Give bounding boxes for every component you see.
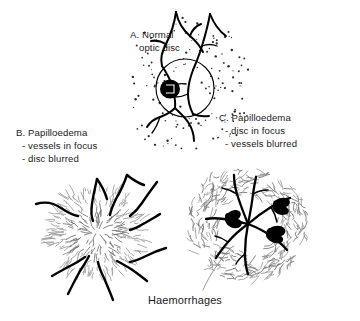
stipple-dot <box>141 124 143 126</box>
stipple-dot <box>217 90 218 91</box>
stipple-dot <box>163 145 164 146</box>
stipple-dot <box>209 48 210 49</box>
stipple-dot <box>175 126 177 128</box>
stipple-dot <box>185 63 186 64</box>
stipple-dot <box>212 41 214 43</box>
stipple-dot <box>184 21 186 23</box>
stipple-dot <box>200 125 202 127</box>
stipple-dot <box>195 147 197 149</box>
panel-b-label-line-1: B. Papilloedema <box>16 127 88 138</box>
diagram-canvas: A. Normal optic disc B. Papilloedema - v… <box>0 0 360 321</box>
stipple-dot <box>144 138 146 140</box>
stipple-dot <box>234 109 236 111</box>
stipple-dot <box>231 49 233 51</box>
stipple-dot <box>212 35 214 37</box>
stipple-dot <box>179 106 181 108</box>
stipple-dot <box>181 17 183 19</box>
stipple-dot <box>147 53 149 55</box>
stipple-dot <box>180 147 182 149</box>
stipple-dot <box>228 31 230 33</box>
stipple-dot <box>133 82 135 84</box>
stipple-dot <box>201 82 203 84</box>
stipple-dot <box>208 86 210 88</box>
stipple-dot <box>146 85 147 86</box>
stipple-dot <box>173 30 175 32</box>
stipple-dot <box>209 92 211 94</box>
stipple-dot <box>157 82 158 83</box>
stipple-dot <box>220 87 221 88</box>
blur-stroke <box>101 210 102 217</box>
panel-c-label-line-1: C. Papilloedema <box>219 112 291 123</box>
stipple-dot <box>213 37 215 39</box>
papilloedema-diagram: A. Normal optic disc B. Papilloedema - v… <box>0 0 360 321</box>
haemorrhages-caption: Haemorrhages <box>148 294 222 306</box>
stipple-dot <box>216 117 217 118</box>
stipple-dot <box>238 56 240 58</box>
stipple-dot <box>222 82 224 84</box>
stipple-dot <box>137 128 139 130</box>
stipple-dot <box>190 122 192 124</box>
stipple-dot <box>151 62 153 64</box>
stipple-dot <box>195 118 197 120</box>
stipple-dot <box>171 138 172 139</box>
stipple-dot <box>241 64 243 66</box>
stipple-dot <box>219 70 221 72</box>
stipple-dot <box>176 124 178 126</box>
blur-squiggle <box>301 198 302 206</box>
stipple-dot <box>215 55 217 57</box>
stipple-dot <box>189 118 190 119</box>
stipple-dot <box>221 128 223 130</box>
stipple-dot <box>196 67 198 69</box>
stipple-dot <box>173 71 174 72</box>
panel-b-label-line-3: - disc blurred <box>22 153 79 164</box>
stipple-dot <box>196 39 197 40</box>
stipple-dot <box>133 107 134 108</box>
stipple-dot <box>218 137 219 138</box>
stipple-dot <box>132 76 134 78</box>
stipple-dot <box>162 112 164 114</box>
stipple-dot <box>175 144 177 146</box>
stipple-dot <box>183 127 185 129</box>
stipple-dot <box>185 51 187 53</box>
stipple-dot <box>167 143 168 144</box>
stipple-dot <box>205 88 207 90</box>
stipple-dot <box>229 36 230 37</box>
stipple-dot <box>215 85 216 86</box>
stipple-dot <box>137 95 139 97</box>
stipple-dot <box>216 39 218 41</box>
stipple-dot <box>166 139 168 141</box>
stipple-dot <box>189 49 190 50</box>
stipple-dot <box>213 97 215 99</box>
stipple-dot <box>152 99 154 101</box>
stipple-dot <box>247 69 249 71</box>
stipple-dot <box>221 53 223 55</box>
stipple-dot <box>175 67 176 68</box>
stipple-dot <box>224 87 226 89</box>
stipple-dot <box>191 40 192 41</box>
stipple-dot <box>154 144 156 146</box>
stipple-dot <box>211 68 213 70</box>
stipple-dot <box>175 120 176 121</box>
panel-b-label-line-2: - vessels in focus <box>22 140 97 151</box>
stipple-dot <box>212 138 214 140</box>
stipple-dot <box>232 76 234 78</box>
stipple-dot <box>239 85 240 86</box>
stipple-dot <box>223 62 225 64</box>
stipple-dot <box>241 98 243 100</box>
stipple-dot <box>164 74 166 76</box>
stipple-dot <box>197 122 199 124</box>
stipple-dot <box>238 82 240 84</box>
stipple-dot <box>176 24 177 25</box>
stipple-dot <box>229 136 230 137</box>
stipple-dot <box>141 57 143 59</box>
stipple-dot <box>165 120 167 122</box>
stipple-dot <box>216 42 218 44</box>
stipple-dot <box>151 73 153 75</box>
stipple-dot <box>231 37 232 38</box>
stipple-dot <box>227 65 229 67</box>
stipple-dot <box>136 45 138 47</box>
stipple-dot <box>238 70 240 72</box>
stipple-dot <box>148 135 150 137</box>
stipple-dot <box>153 77 155 79</box>
stipple-dot <box>183 64 185 66</box>
